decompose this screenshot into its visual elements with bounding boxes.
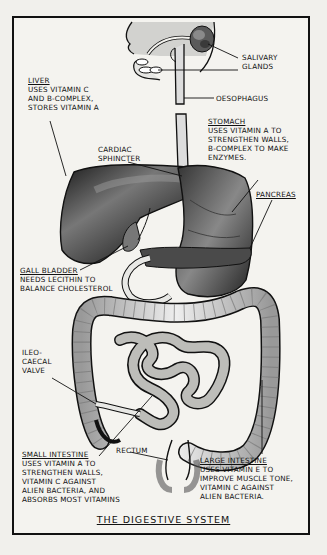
pancreas-title: PANCREAS bbox=[256, 190, 296, 199]
label-ileo-caecal-valve: ILEO- CAECAL VALVE bbox=[22, 348, 52, 375]
label-large-intestine: LARGE INTESTINE USES VITAMIN E TO IMPROV… bbox=[200, 456, 293, 501]
label-small-intestine: SMALL INTESTINE USES VITAMIN A TO STRENG… bbox=[22, 450, 120, 504]
label-liver: LIVER USES VITAMIN C AND B-COMPLEX, STOR… bbox=[28, 76, 99, 112]
cardiac-sphincter-text: CARDIAC SPHINCTER bbox=[98, 145, 141, 163]
diagram-title: THE DIGESTIVE SYSTEM bbox=[0, 514, 327, 525]
pancreas bbox=[140, 247, 251, 268]
oesophagus-text: OESOPHAGUS bbox=[216, 94, 268, 103]
label-oesophagus: OESOPHAGUS bbox=[216, 94, 268, 103]
label-salivary-glands: SALIVARY GLANDS bbox=[242, 53, 278, 71]
label-cardiac-sphincter: CARDIAC SPHINCTER bbox=[98, 145, 141, 163]
salivary-glands-text: SALIVARY GLANDS bbox=[242, 53, 278, 71]
rectum-text: RECTUM bbox=[116, 446, 148, 455]
gall-bladder-title: GALL BLADDER bbox=[20, 266, 113, 275]
liver-title: LIVER bbox=[28, 76, 99, 85]
small-intestine bbox=[96, 337, 224, 424]
label-stomach: STOMACH USES VITAMIN A TO STRENGTHEN WAL… bbox=[208, 117, 289, 162]
label-gall-bladder: GALL BLADDER NEEDS LECITHIN TO BALANCE C… bbox=[20, 266, 113, 293]
liver-desc: USES VITAMIN C AND B-COMPLEX, STORES VIT… bbox=[28, 85, 99, 112]
large-intestine-desc: USES VITAMIN E TO IMPROVE MUSCLE TONE, V… bbox=[200, 465, 293, 501]
large-intestine-title: LARGE INTESTINE bbox=[200, 456, 293, 465]
ileo-caecal-valve-text: ILEO- CAECAL VALVE bbox=[22, 348, 52, 375]
label-pancreas: PANCREAS bbox=[256, 190, 296, 199]
large-intestine bbox=[82, 297, 271, 461]
stomach-desc: USES VITAMIN A TO STRENGTHEN WALLS, B-CO… bbox=[208, 126, 289, 162]
gall-bladder-desc: NEEDS LECITHIN TO BALANCE CHOLESTEROL bbox=[20, 275, 113, 293]
stomach-title: STOMACH bbox=[208, 117, 289, 126]
label-rectum: RECTUM bbox=[116, 446, 148, 455]
salivary-gland bbox=[190, 26, 214, 52]
oesophagus bbox=[171, 44, 188, 168]
small-intestine-title: SMALL INTESTINE bbox=[22, 450, 120, 459]
stomach bbox=[176, 166, 253, 297]
small-intestine-desc: USES VITAMIN A TO STRENGTHEN WALLS, VITA… bbox=[22, 459, 120, 504]
